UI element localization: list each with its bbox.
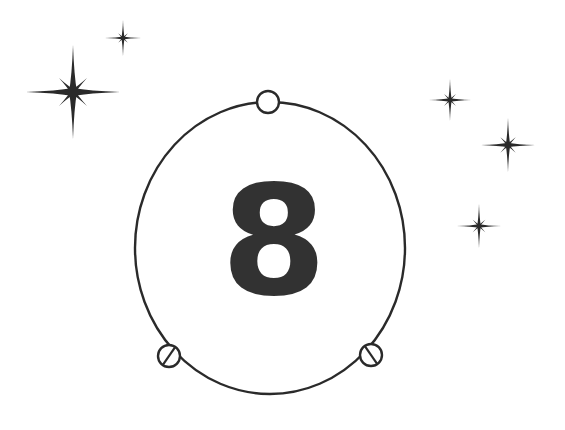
star-ray-major	[479, 224, 501, 228]
electron-bottom-right	[360, 344, 382, 366]
star-ray-major	[448, 100, 452, 121]
star-ray-major	[73, 88, 120, 96]
atom-diagram-svg: 8	[0, 0, 565, 430]
star-ray-major	[69, 92, 77, 139]
star-ray-major	[506, 118, 511, 145]
electron-top	[257, 91, 279, 113]
star-ray-major	[508, 143, 535, 148]
atom-diagram-canvas: 8	[0, 0, 565, 430]
star-ray-major	[477, 226, 481, 248]
electron-bottom-left	[158, 345, 180, 367]
star-large-upper-left	[26, 45, 120, 139]
star-core	[69, 88, 77, 96]
star-ray-major	[457, 224, 479, 228]
star-ray-major	[481, 143, 508, 148]
star-ray-major	[69, 45, 77, 92]
star-ray-major	[121, 20, 124, 38]
star-ray-major	[26, 88, 73, 96]
star-ray-major	[450, 98, 471, 102]
star-core	[477, 224, 481, 228]
star-core	[121, 36, 124, 39]
star-right-upper	[429, 79, 471, 121]
star-core	[448, 98, 452, 102]
star-small-top	[105, 20, 141, 56]
nucleus-number-label: 8	[221, 153, 327, 330]
star-ray-major	[448, 79, 452, 100]
star-ray-major	[105, 36, 123, 39]
star-ray-major	[429, 98, 450, 102]
star-core	[506, 143, 511, 148]
star-right-middle	[481, 118, 535, 172]
star-ray-major	[506, 145, 511, 172]
star-ray-major	[121, 38, 124, 56]
star-ray-major	[477, 204, 481, 226]
star-ray-major	[123, 36, 141, 39]
star-right-lower	[457, 204, 501, 248]
